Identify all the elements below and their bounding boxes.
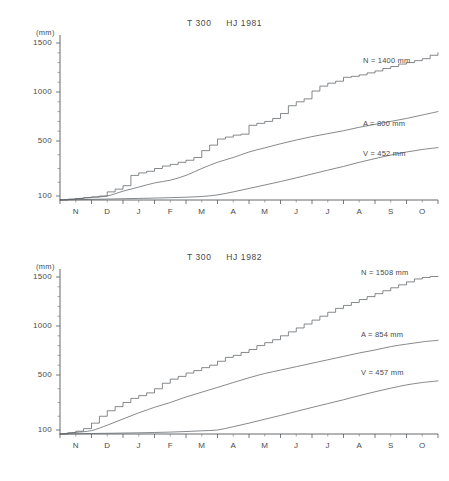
curve-label-v-1982: V = 457 mm — [361, 368, 404, 377]
x-tick-label-1982-9: A — [351, 441, 367, 450]
x-tick-label-1982-1: D — [99, 441, 115, 450]
x-tick-label-1981-0: N — [68, 207, 84, 216]
y-tick-label-1981-1000: 1000 — [22, 87, 52, 96]
y-tick-label-1981-500: 500 — [22, 136, 52, 145]
curve-label-a-1981: A = 800 mm — [363, 119, 405, 128]
curve-n-1982 — [60, 276, 438, 434]
x-tick-label-1981-3: F — [162, 207, 178, 216]
x-tick-label-1982-6: M — [257, 441, 273, 450]
x-tick-label-1982-10: S — [383, 441, 399, 450]
curve-v-1982 — [60, 381, 438, 434]
x-tick-label-1981-9: A — [351, 207, 367, 216]
x-tick-label-1981-10: S — [383, 207, 399, 216]
x-tick-label-1982-3: F — [162, 441, 178, 450]
chart-panel-1981: T 300 HJ 1981 (mm) N = 1400 mm A = 800 m… — [0, 4, 449, 236]
x-tick-label-1982-0: N — [68, 441, 84, 450]
curve-label-a-1982: A = 854 mm — [361, 330, 403, 339]
x-tick-label-1982-2: J — [131, 441, 147, 450]
y-tick-label-1981-1500: 1500 — [22, 38, 52, 47]
chart-panel-1982: T 300 HJ 1982 (mm) N = 1508 mm A = 854 m… — [0, 238, 449, 470]
x-tick-label-1982-11: O — [414, 441, 430, 450]
x-tick-label-1981-8: J — [320, 207, 336, 216]
x-tick-label-1982-4: M — [194, 441, 210, 450]
x-tick-label-1981-2: J — [131, 207, 147, 216]
x-tick-label-1981-1: D — [99, 207, 115, 216]
curve-label-n-1981: N = 1400 mm — [363, 56, 410, 65]
curve-a-1982 — [60, 340, 438, 434]
x-tick-label-1981-7: J — [288, 207, 304, 216]
x-tick-label-1981-5: A — [225, 207, 241, 216]
x-tick-label-1981-4: M — [194, 207, 210, 216]
y-tick-label-1982-1000: 1000 — [22, 321, 52, 330]
x-tick-label-1981-6: M — [257, 207, 273, 216]
curve-label-v-1981: V = 452 mm — [363, 149, 406, 158]
y-tick-label-1982-1500: 1500 — [22, 272, 52, 281]
x-tick-label-1982-7: J — [288, 441, 304, 450]
x-tick-label-1981-11: O — [414, 207, 430, 216]
y-tick-label-1981-100: 100 — [22, 191, 52, 200]
x-tick-label-1982-5: A — [225, 441, 241, 450]
y-tick-label-1982-500: 500 — [22, 370, 52, 379]
x-tick-label-1982-8: J — [320, 441, 336, 450]
curve-label-n-1982: N = 1508 mm — [361, 268, 408, 277]
y-tick-label-1982-100: 100 — [22, 425, 52, 434]
